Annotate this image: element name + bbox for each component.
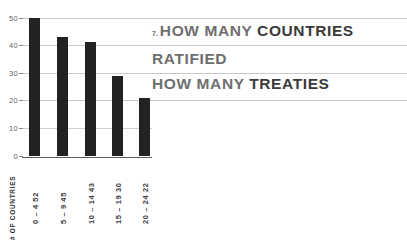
y-axis-title: # OF COUNTRIES	[9, 176, 16, 240]
ytick-mark-20	[19, 100, 23, 101]
title-line-1-normal: HOW MANY	[160, 22, 257, 39]
bar-0-4	[29, 18, 40, 156]
title-number: 7.	[152, 30, 158, 37]
bar-5-9	[57, 37, 68, 156]
title-line-3-normal: HOW MANY	[152, 75, 249, 92]
chart-canvas: 50 40 30 20 10 0 0 – 4 52 5 – 9 45 10 – …	[0, 0, 407, 243]
ytick-label-10: 10	[0, 124, 18, 133]
xtick-label-5-9: 5 – 9 45	[59, 192, 68, 224]
ytick-mark-10	[19, 128, 23, 129]
ytick-label-0: 0	[0, 152, 18, 161]
xtick-label-15-19: 15 – 19 30	[114, 183, 123, 224]
title-line-1: 7.HOW MANY COUNTRIES	[152, 18, 402, 46]
ytick-mark-30	[19, 73, 23, 74]
ytick-mark-40	[19, 45, 23, 46]
title-line-2: RATIFIED	[152, 46, 402, 71]
ytick-label-50: 50	[0, 14, 18, 23]
title-line-3: HOW MANY TREATIES	[152, 71, 402, 96]
ytick-mark-50	[19, 18, 23, 19]
bar-15-19	[112, 76, 123, 156]
ytick-label-30: 30	[0, 69, 18, 78]
xtick-label-0-4: 0 – 4 52	[31, 192, 40, 224]
gridline-20	[22, 100, 407, 101]
xtick-label-10-14: 10 – 14 43	[87, 183, 96, 224]
bar-20-24	[139, 98, 150, 156]
ytick-label-40: 40	[0, 41, 18, 50]
ytick-label-20: 20	[0, 96, 18, 105]
x-axis-line	[22, 157, 152, 158]
xtick-label-20-24: 20 – 24 22	[141, 183, 150, 224]
bar-10-14	[85, 42, 96, 156]
title-line-3-emphasis: TREATIES	[249, 75, 329, 92]
chart-title: 7.HOW MANY COUNTRIES RATIFIED HOW MANY T…	[152, 18, 402, 96]
title-line-1-emphasis: COUNTRIES	[257, 22, 354, 39]
